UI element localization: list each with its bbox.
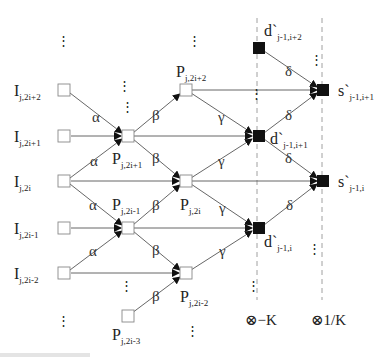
coef-gamma-4: γ: [218, 243, 226, 259]
coef-gamma-3: γ: [218, 200, 226, 216]
label-i-2i+2: Ij,2i+2: [14, 82, 41, 102]
label-s-i: s`j-1,i: [338, 173, 365, 193]
coef-delta-4: δ: [286, 197, 293, 213]
node-i-2i+1: [58, 130, 70, 142]
label-d-i+1: d`j-1,i+1: [270, 130, 308, 150]
ellipsis-bottom-input: ⋮: [57, 313, 70, 328]
ellipsis-d-upper: ⋮: [250, 86, 263, 101]
label-p-2i-2: Pj,2i-2: [180, 288, 208, 308]
node-p-2i-2: [180, 267, 192, 279]
ellipsis-top-input: ⋮: [57, 33, 70, 48]
coef-beta-1: β: [152, 107, 160, 123]
edges: [70, 51, 317, 313]
coef-delta-1: δ: [285, 63, 292, 79]
node-p-2i: [180, 175, 192, 187]
node-s-i+1: [317, 84, 329, 96]
node-i-2i: [58, 175, 70, 187]
label-p-2i+1: Pj,2i+1: [112, 150, 142, 170]
label-p-2i-3: Pj,2i-3: [112, 326, 141, 346]
node-p-2i+2: [180, 84, 192, 96]
node-p-2i-3: [122, 310, 134, 322]
coef-beta-3: β: [152, 197, 160, 213]
label-s-i+1: s`j-1,i+1: [338, 82, 374, 102]
node-i-2i+2: [58, 84, 70, 96]
node-p-2i-1: [122, 222, 134, 234]
coef-beta-5: β: [152, 288, 160, 304]
coef-delta-3: δ: [285, 150, 292, 166]
label-p-2i-1: Pj,2i-1: [112, 196, 140, 216]
ellipsis-top-p: ⋮: [188, 33, 201, 48]
scale-inv-k: ⊗1/K: [311, 312, 346, 328]
caption-truncated: [0, 353, 90, 357]
ellipsis-p-upper: ⋮: [121, 99, 134, 114]
lifting-diagram: Ij,2i+2 Ij,2i+1 Ij,2i Ij,2i-1 Ij,2i-2 Pj…: [0, 0, 384, 357]
label-i-2i-1: Ij,2i-1: [14, 220, 39, 240]
label-p-2i: Pj,2i: [180, 196, 201, 216]
coef-gamma-2: γ: [217, 153, 225, 169]
ellipsis-bottom-p: ⋮: [186, 323, 199, 338]
label-p-2i+2: Pj,2i+2: [176, 63, 206, 83]
coef-beta-4: β: [152, 242, 160, 258]
node-d-i+2: [253, 42, 265, 54]
label-i-2i-2: Ij,2i-2: [14, 265, 39, 285]
label-i-2i+1: Ij,2i+1: [14, 128, 41, 148]
coef-alpha-2: α: [90, 153, 98, 169]
ellipsis-p-lower: ⋮: [120, 278, 133, 293]
coef-delta-2: δ: [285, 107, 292, 123]
node-p-2i+1: [122, 130, 134, 142]
scale-minus-k: ⊗−K: [245, 312, 277, 328]
node-i-2i-2: [58, 267, 70, 279]
ellipsis-mid: ⋮: [118, 78, 131, 93]
coef-beta-2: β: [152, 150, 160, 166]
node-i-2i-1: [58, 222, 70, 234]
ellipsis-s-lower: ⋮: [308, 241, 321, 256]
coef-alpha-4: α: [89, 243, 97, 259]
coef-alpha-1: α: [92, 109, 100, 125]
label-i-2i: Ij,2i: [14, 173, 32, 193]
coef-alpha-3: α: [89, 197, 97, 213]
ellipsis-d-lower: ⋮: [247, 278, 260, 293]
ellipsis-s-upper: ⋮: [310, 52, 323, 67]
coef-gamma-1: γ: [217, 109, 225, 125]
node-s-i: [317, 175, 329, 187]
node-d-i+1: [253, 130, 265, 142]
label-d-i+2: d`j-1,i+2: [264, 22, 302, 42]
label-d-i: d`j-1,i: [264, 233, 293, 253]
